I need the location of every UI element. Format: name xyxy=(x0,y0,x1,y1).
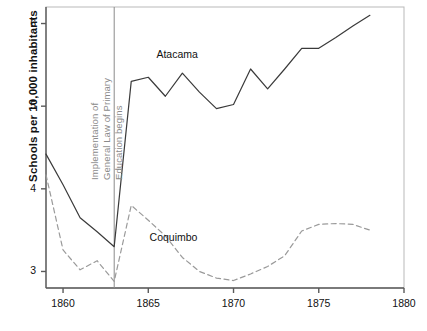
y-tick-label-5: 5 xyxy=(12,99,36,111)
series-label-atacama: Atacama xyxy=(156,48,197,60)
annotation-line-3: Education begins xyxy=(113,106,124,181)
x-tick-label-1880: 1880 xyxy=(384,297,424,309)
annotation-line-2: General Law of Primary xyxy=(101,78,112,180)
x-tick-label-1860: 1860 xyxy=(43,297,83,309)
y-tick-label-3: 3 xyxy=(12,264,36,276)
reference-line-annotation: Implementation of General Law of Primary… xyxy=(78,22,120,180)
y-tick-label-6: 6 xyxy=(12,17,36,29)
y-tick-label-4: 4 xyxy=(12,182,36,194)
y-axis-title-text: Schools per 10,000 inhabitants xyxy=(27,10,39,182)
chart-canvas xyxy=(0,0,427,331)
annotation-line-1: Implementation of xyxy=(89,103,100,180)
series-line-coquimbo xyxy=(46,175,370,282)
x-tick-label-1865: 1865 xyxy=(128,297,168,309)
x-tick-label-1870: 1870 xyxy=(214,297,254,309)
series-label-coquimbo: Coquimbo xyxy=(150,231,198,243)
chart-figure: Schools per 10,000 inhabitants 3456 1860… xyxy=(0,0,427,331)
x-tick-label-1875: 1875 xyxy=(299,297,339,309)
